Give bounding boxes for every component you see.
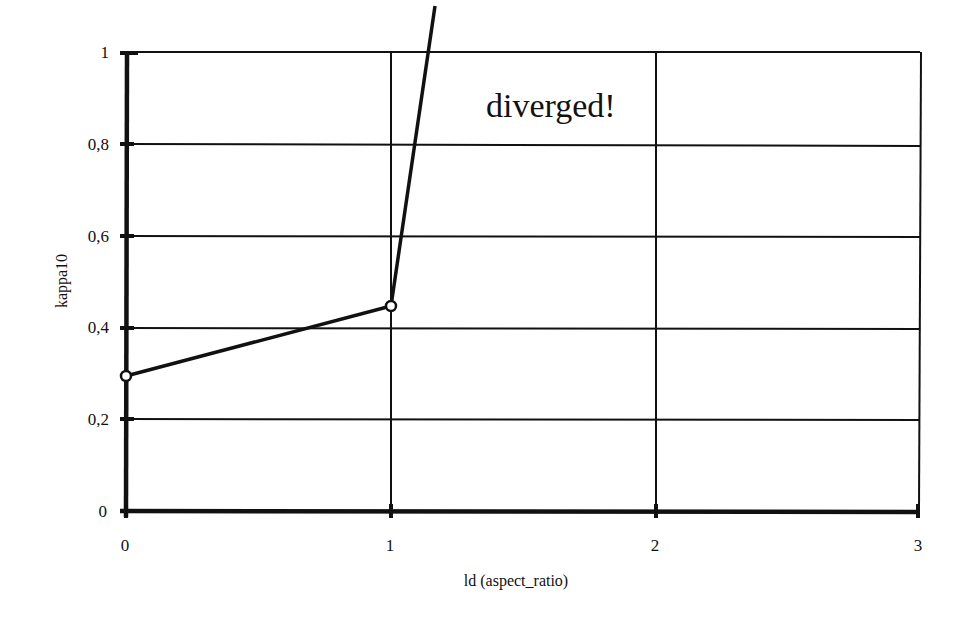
x-tick-label: 1 <box>386 536 395 555</box>
y-tick-label: 0,4 <box>88 318 110 337</box>
gridline-y-0.2 <box>126 419 920 420</box>
y-axis-title: kappa10 <box>53 254 71 308</box>
gridline-x-3 <box>919 52 921 512</box>
x-axis-title: ld (aspect_ratio) <box>464 572 568 590</box>
series-line <box>126 306 391 376</box>
x-tick-label: 3 <box>914 536 923 555</box>
gridline-y-0.4 <box>126 328 920 329</box>
y-tick-labels: 1 0,8 0,6 0,4 0,2 0 <box>88 43 110 521</box>
y-axis <box>126 52 127 517</box>
gridline-y-0.6 <box>126 236 920 237</box>
data-point-marker <box>121 371 131 381</box>
y-tick-label: 0,8 <box>88 135 109 154</box>
data-point-marker <box>386 301 396 311</box>
y-tick-label: 0,6 <box>88 227 109 246</box>
series-kappa10 <box>121 6 435 381</box>
x-axis <box>120 511 920 512</box>
y-tick-label: 0 <box>99 502 108 521</box>
y-tick-label: 1 <box>101 43 110 62</box>
diverged-annotation: diverged! <box>486 87 616 124</box>
vertical-gridlines <box>391 52 921 512</box>
x-tick-label: 2 <box>651 536 660 555</box>
x-tick-labels: 0 1 2 3 <box>121 536 923 555</box>
x-tick-label: 0 <box>121 536 130 555</box>
chart: 1 0,8 0,6 0,4 0,2 0 0 1 2 3 ld (aspect_r… <box>0 0 976 634</box>
y-tick-label: 0,2 <box>88 410 109 429</box>
gridline-y-0.8 <box>126 144 920 146</box>
